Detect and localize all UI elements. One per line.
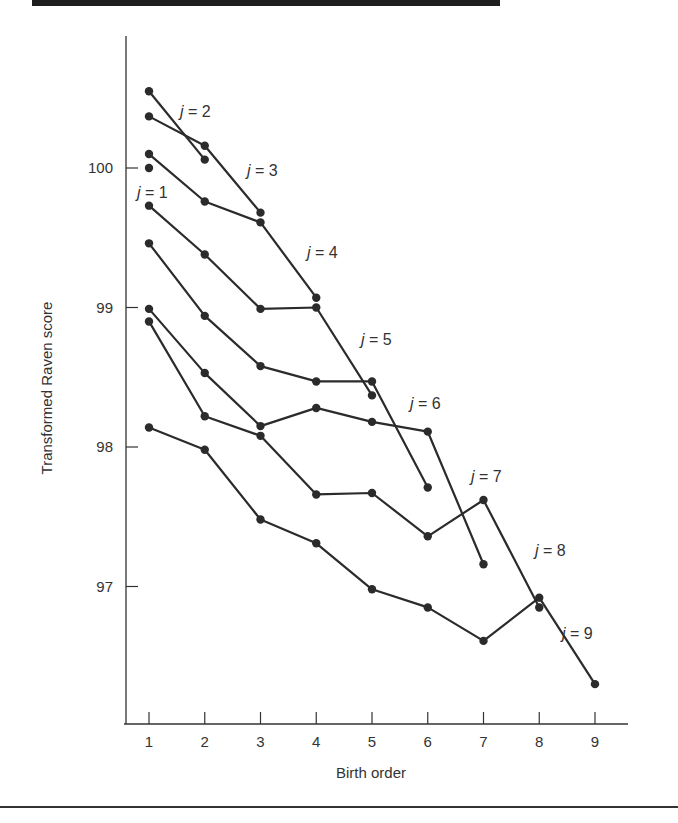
data-point <box>201 197 209 205</box>
data-point <box>201 155 209 163</box>
data-point <box>312 404 320 412</box>
series-label: j = 1 <box>135 184 168 201</box>
y-axis-label: Transformed Raven score <box>38 302 55 475</box>
series-9 <box>145 423 599 688</box>
series-line <box>149 91 205 159</box>
data-point <box>424 603 432 611</box>
x-tick-label: 7 <box>479 733 487 750</box>
x-tick-label: 3 <box>256 733 264 750</box>
series-label: j = 6 <box>408 395 441 412</box>
data-point <box>201 369 209 377</box>
data-point <box>145 112 153 120</box>
axes: 979899100 123456789 <box>88 36 628 750</box>
data-point <box>312 490 320 498</box>
series-label: j = 7 <box>469 468 502 485</box>
series-line <box>149 428 595 685</box>
data-point <box>256 432 264 440</box>
data-point <box>368 377 376 385</box>
data-point <box>145 87 153 95</box>
series-label: j = 4 <box>305 244 338 261</box>
x-tick-label: 5 <box>368 733 376 750</box>
series-label: j = 9 <box>560 625 593 642</box>
x-tick-label: 8 <box>535 733 543 750</box>
bottom-rule <box>0 806 678 808</box>
data-point <box>145 164 153 172</box>
data-point <box>312 539 320 547</box>
data-point <box>201 141 209 149</box>
data-point <box>368 391 376 399</box>
series-2 <box>145 87 209 164</box>
y-tick-label: 98 <box>96 438 113 455</box>
series-6 <box>145 239 432 492</box>
series-label: j = 3 <box>245 162 278 179</box>
data-point <box>424 532 432 540</box>
x-tick-label: 2 <box>201 733 209 750</box>
data-point <box>145 150 153 158</box>
data-point <box>368 585 376 593</box>
data-point <box>201 312 209 320</box>
data-point <box>256 218 264 226</box>
series-line <box>149 309 484 564</box>
data-point <box>201 250 209 258</box>
data-point <box>256 515 264 523</box>
x-tick-label: 6 <box>424 733 432 750</box>
data-point <box>312 294 320 302</box>
data-point <box>145 317 153 325</box>
data-point <box>368 489 376 497</box>
data-point <box>312 377 320 385</box>
data-point <box>256 208 264 216</box>
y-tick-label: 99 <box>96 299 113 316</box>
series-lines <box>145 87 599 688</box>
data-point <box>145 239 153 247</box>
series-label: j = 5 <box>359 331 392 348</box>
x-tick-label: 1 <box>145 733 153 750</box>
data-point <box>368 418 376 426</box>
data-point <box>535 593 543 601</box>
data-point <box>256 422 264 430</box>
x-tick-label: 4 <box>312 733 320 750</box>
x-ticks: 123456789 <box>145 712 599 750</box>
series-line <box>149 243 428 487</box>
data-point <box>145 201 153 209</box>
y-tick-label: 100 <box>88 159 113 176</box>
data-point <box>256 305 264 313</box>
data-point <box>201 446 209 454</box>
x-axis-label: Birth order <box>336 764 406 781</box>
series-1 <box>145 164 153 172</box>
data-point <box>535 603 543 611</box>
data-point <box>201 412 209 420</box>
series-7 <box>145 305 488 569</box>
data-point <box>479 560 487 568</box>
series-label: j = 2 <box>178 103 211 120</box>
data-point <box>312 303 320 311</box>
y-tick-label: 97 <box>96 578 113 595</box>
x-tick-label: 9 <box>591 733 599 750</box>
data-point <box>479 496 487 504</box>
data-point <box>479 637 487 645</box>
data-point <box>424 427 432 435</box>
series-label: j = 8 <box>533 542 566 559</box>
line-chart: 979899100 123456789 j = 1j = 2j = 3j = 4… <box>0 0 678 823</box>
data-point <box>256 362 264 370</box>
data-point <box>145 305 153 313</box>
data-point <box>424 483 432 491</box>
data-point <box>145 423 153 431</box>
y-ticks: 979899100 <box>88 159 138 595</box>
data-point <box>591 680 599 688</box>
